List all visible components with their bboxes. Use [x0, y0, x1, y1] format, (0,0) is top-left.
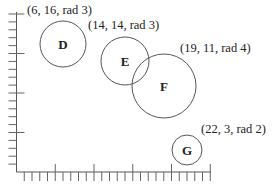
circle-d-label: (6, 16, rad 3)	[27, 3, 92, 17]
circle-f-label: (19, 11, rad 4)	[180, 41, 251, 55]
circle-diagram: D (6, 16, rad 3) E (14, 14, rad 3) F (19…	[0, 0, 279, 190]
circle-d: D (6, 16, rad 3)	[27, 3, 92, 67]
circle-g-label: (22, 3, rad 2)	[201, 122, 266, 136]
circle-e-name: E	[121, 54, 130, 69]
circle-g-name: G	[182, 143, 192, 158]
circle-g: G (22, 3, rad 2)	[172, 122, 266, 165]
y-axis	[9, 12, 25, 172]
circle-f-name: F	[160, 79, 168, 94]
circle-f: F (19, 11, rad 4)	[132, 41, 251, 118]
circle-e-label: (14, 14, rad 3)	[88, 18, 159, 32]
x-axis	[17, 164, 212, 181]
circle-e: E (14, 14, rad 3)	[88, 18, 159, 85]
circle-d-name: D	[58, 37, 67, 52]
